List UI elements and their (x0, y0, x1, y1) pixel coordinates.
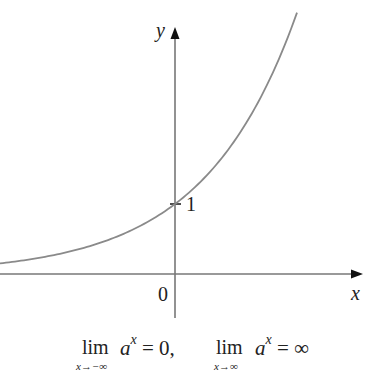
y-tick-label: 1 (186, 194, 196, 214)
x-axis-arrow-icon (351, 270, 363, 279)
y-axis-label: y (156, 20, 165, 40)
exponential-curve (0, 13, 297, 264)
limit2-rhs: = ∞ (272, 336, 309, 360)
limit2-expression: ax = ∞ (255, 335, 309, 361)
limit-caption: lim x→−∞ ax = 0, lim x→∞ ax = ∞ (0, 330, 372, 376)
limit2-base: a (255, 336, 266, 360)
limit1-lim: lim (82, 336, 109, 359)
limit1-subscript: x→−∞ (76, 360, 107, 372)
limit2-subscript: x→∞ (214, 360, 238, 372)
limit1-exponent: x (131, 332, 137, 347)
limit1-expression: ax = 0, (120, 335, 175, 361)
origin-label: 0 (158, 284, 168, 304)
limit2-exponent: x (266, 332, 272, 347)
x-axis-label: x (351, 283, 360, 303)
limit1-rhs: = 0, (137, 336, 175, 360)
limit1-base: a (120, 336, 131, 360)
graph-canvas (0, 0, 372, 330)
y-axis-arrow-icon (171, 27, 180, 39)
limit2-lim: lim (216, 336, 243, 359)
